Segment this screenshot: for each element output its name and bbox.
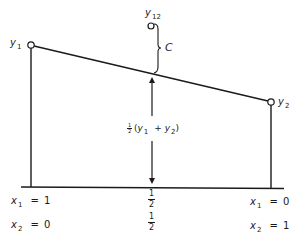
left-x2-value: 0: [44, 219, 50, 230]
right-x2-label: x2 =1: [250, 221, 289, 235]
y12-point-icon: [148, 23, 154, 29]
left-x2-sub: 2: [18, 225, 22, 233]
right-x2-eq: =: [270, 220, 278, 231]
center-x2-num: 1: [149, 213, 154, 221]
left-x1-sub: 1: [18, 201, 22, 209]
left-x1-value: 1: [44, 195, 50, 206]
y1-point-icon: [28, 42, 34, 48]
y1-label: y1: [10, 38, 21, 52]
plus-sign: +: [154, 123, 162, 133]
y12-subscript: 12: [152, 13, 161, 21]
brace-icon: [154, 24, 161, 73]
right-x2-var: x: [250, 220, 256, 231]
midpoint-label: 1 2 (y1 +y2): [127, 123, 179, 137]
mid-var1: y: [138, 123, 143, 133]
center-x1-num: 1: [149, 190, 154, 198]
y1-var: y: [10, 37, 16, 48]
left-x1-label: x1 =1: [11, 196, 50, 210]
y12-var: y: [145, 7, 151, 18]
y2-label: y2: [278, 97, 289, 111]
center-x1-fraction: 1 2: [148, 190, 155, 209]
mid-var2: y: [165, 123, 170, 133]
y12-label: y12: [145, 8, 161, 22]
right-x2-value: 1: [283, 220, 289, 231]
mid-sub1: 1: [144, 128, 148, 136]
y2-var: y: [278, 96, 284, 107]
half-den: 2: [128, 129, 131, 134]
left-x2-eq: =: [31, 219, 39, 230]
close-paren: ): [176, 123, 180, 133]
right-x1-var: x: [250, 196, 256, 207]
center-x2-fraction: 1 2: [148, 213, 155, 232]
linear-mixing-line: [34, 46, 268, 101]
brace-c-label: C: [165, 43, 173, 53]
center-x1-den: 2: [149, 201, 154, 209]
right-x2-sub: 2: [257, 226, 261, 234]
y2-point-icon: [268, 99, 274, 105]
left-x2-var: x: [11, 219, 17, 230]
left-x1-eq: =: [31, 195, 39, 206]
y2-subscript: 2: [285, 102, 289, 110]
half-fraction: 1 2: [127, 123, 132, 134]
right-x1-value: 0: [283, 196, 289, 207]
right-x1-eq: =: [270, 196, 278, 207]
left-x2-label: x2 =0: [11, 220, 50, 234]
center-x2-den: 2: [149, 224, 154, 232]
right-x1-label: x1 =0: [250, 197, 289, 211]
left-x1-var: x: [11, 195, 17, 206]
y1-subscript: 1: [17, 43, 21, 51]
right-x1-sub: 1: [257, 202, 261, 210]
